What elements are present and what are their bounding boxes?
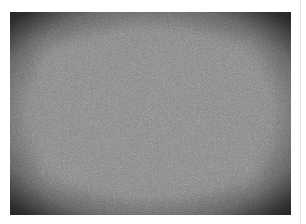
scrollbar-track[interactable] [300, 0, 301, 224]
noise-image [10, 12, 291, 215]
page [0, 0, 306, 224]
noise-overlay [10, 12, 291, 215]
